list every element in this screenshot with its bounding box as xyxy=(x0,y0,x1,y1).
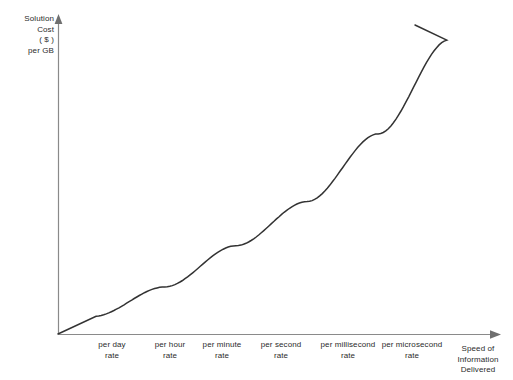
x-tick-label-per-minute: per minute rate xyxy=(194,340,250,361)
x-tick-label-per-hour: per hour rate xyxy=(145,340,195,361)
y-axis-arrowhead xyxy=(55,14,63,24)
x-axis xyxy=(59,330,502,338)
x-tick-label-per-day: per day rate xyxy=(88,340,136,361)
x-tick-label-per-second: per second rate xyxy=(253,340,309,361)
y-axis xyxy=(55,14,63,335)
chart-plot-area xyxy=(0,0,513,380)
cost-curve xyxy=(58,25,447,334)
chart-canvas: Solution Cost ( $ ) per GB Speed of Info… xyxy=(0,0,513,380)
x-tick-label-per-microsecond: per microsecond rate xyxy=(374,340,450,361)
x-axis-arrowhead xyxy=(490,330,501,338)
x-axis-title: Speed of Information Delivered xyxy=(444,344,512,376)
y-axis-title: Solution Cost ( $ ) per GB xyxy=(0,14,54,56)
